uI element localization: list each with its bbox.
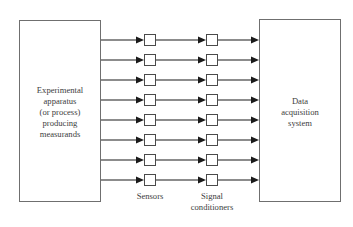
data-acquisition-system-line-2: acquisition xyxy=(281,107,319,117)
signal-conditioner-node xyxy=(207,115,218,126)
sensor-node xyxy=(145,155,156,166)
sensor-node xyxy=(145,175,156,186)
signal-channel-row xyxy=(101,95,259,106)
sensor-node xyxy=(145,95,156,106)
signal-conditioner-node xyxy=(207,95,218,106)
sensors-label: Sensors xyxy=(137,191,164,201)
signal-channel-row xyxy=(101,135,259,146)
data-acquisition-system-line-3: system xyxy=(288,118,312,128)
signal-channel-row xyxy=(101,115,259,126)
sensor-node xyxy=(145,75,156,86)
signal-conditioners-label-line-2: conditioners xyxy=(191,202,234,212)
arrow-head-icon xyxy=(251,57,259,64)
arrow-head-icon xyxy=(251,117,259,124)
arrow-head-icon xyxy=(251,97,259,104)
arrow-head-icon xyxy=(198,117,206,124)
signal-channel-row xyxy=(101,55,259,66)
arrow-head-icon xyxy=(198,57,206,64)
signal-conditioner-node xyxy=(207,55,218,66)
signal-conditioner-node xyxy=(207,75,218,86)
signal-conditioner-node xyxy=(207,35,218,46)
signal-conditioner-node xyxy=(207,175,218,186)
arrow-head-icon xyxy=(251,157,259,164)
experimental-apparatus-block: Experimental apparatus (or process) prod… xyxy=(20,21,101,202)
arrow-head-icon xyxy=(198,97,206,104)
arrow-head-icon xyxy=(198,157,206,164)
signal-conditioners-label-line-1: Signal xyxy=(201,191,224,201)
signal-channel-row xyxy=(101,175,259,186)
data-acquisition-system-block: Data acquisition system xyxy=(260,20,341,202)
signal-channel-row xyxy=(101,155,259,166)
arrow-head-icon xyxy=(136,77,144,84)
sensor-node xyxy=(145,35,156,46)
arrow-head-icon xyxy=(136,37,144,44)
sensor-node xyxy=(145,115,156,126)
arrow-head-icon xyxy=(198,137,206,144)
sensor-node xyxy=(145,55,156,66)
signal-channel-row xyxy=(101,35,259,46)
arrow-head-icon xyxy=(198,177,206,184)
experimental-apparatus-line-3: (or process) xyxy=(40,107,81,117)
experimental-apparatus-line-1: Experimental xyxy=(37,85,84,95)
experimental-apparatus-line-4: producing xyxy=(43,118,79,128)
arrow-head-icon xyxy=(136,117,144,124)
experimental-apparatus-line-5: measurands xyxy=(40,129,81,139)
signal-channel-row xyxy=(101,75,259,86)
arrow-head-icon xyxy=(136,177,144,184)
arrow-head-icon xyxy=(251,37,259,44)
arrow-head-icon xyxy=(198,37,206,44)
arrow-head-icon xyxy=(136,97,144,104)
diagram-canvas: Experimental apparatus (or process) prod… xyxy=(0,0,353,227)
sensor-node xyxy=(145,135,156,146)
arrow-head-icon xyxy=(251,77,259,84)
signal-conditioner-node xyxy=(207,135,218,146)
arrow-head-icon xyxy=(251,137,259,144)
arrow-head-icon xyxy=(136,137,144,144)
arrow-head-icon xyxy=(251,177,259,184)
data-acquisition-system-line-1: Data xyxy=(292,96,308,106)
arrow-head-icon xyxy=(136,157,144,164)
arrow-head-icon xyxy=(136,57,144,64)
signal-conditioner-node xyxy=(207,155,218,166)
experimental-apparatus-line-2: apparatus xyxy=(44,96,78,106)
measurement-chain-diagram: Experimental apparatus (or process) prod… xyxy=(0,0,353,227)
arrow-head-icon xyxy=(198,77,206,84)
